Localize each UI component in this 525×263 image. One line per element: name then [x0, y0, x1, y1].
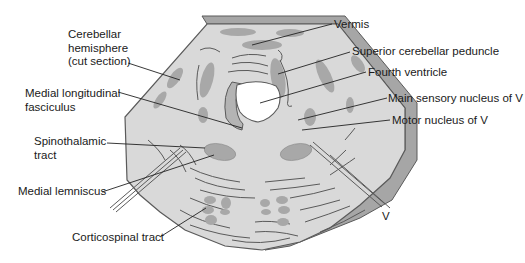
- label-medial-lemniscus: Medial lemniscus: [18, 185, 106, 199]
- label-vermis: Vermis: [334, 18, 369, 32]
- label-corticospinal-tract: Corticospinal tract: [72, 231, 164, 245]
- label-medial-longitudinal-fasciculus: Medial longitudinal fasciculus: [25, 87, 120, 114]
- label-cerebellar-hemisphere: Cerebellar hemisphere (cut section): [68, 28, 131, 69]
- label-fourth-ventricle: Fourth ventricle: [368, 66, 447, 80]
- label-main-sensory-nucleus: Main sensory nucleus of V: [388, 92, 523, 106]
- label-trigeminal-nerve: V: [382, 210, 390, 224]
- label-superior-cerebellar-peduncle: Superior cerebellar peduncle: [352, 45, 499, 59]
- label-motor-nucleus: Motor nucleus of V: [392, 114, 488, 128]
- label-spinothalamic-tract: Spinothalamic tract: [34, 135, 106, 162]
